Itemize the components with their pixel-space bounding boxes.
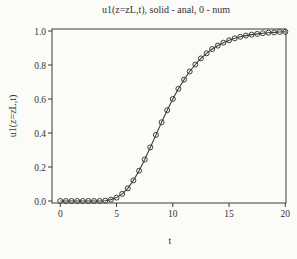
x-tick-label: 0: [58, 209, 63, 219]
y-tick-label: 0.6: [34, 95, 46, 105]
y-axis-label: u1(z=zL,t): [7, 95, 19, 138]
figure: u1(z=zL,t), solid - anal, 0 - num 0.00.2…: [0, 0, 297, 259]
numerical-markers: [58, 29, 288, 203]
y-tick-label: 0.2: [34, 163, 46, 173]
x-axis-ticks: 05101520: [58, 203, 290, 219]
x-tick-label: 10: [168, 209, 178, 219]
chart-title: u1(z=zL,t), solid - anal, 0 - num: [102, 4, 230, 16]
x-axis-label: t: [169, 235, 172, 246]
analytical-curve: [60, 32, 285, 201]
x-tick-label: 15: [224, 209, 234, 219]
y-tick-label: 0.8: [34, 61, 46, 71]
analytical-line: [60, 32, 285, 201]
plot-frame: [52, 29, 286, 203]
chart-svg: u1(z=zL,t), solid - anal, 0 - num 0.00.2…: [0, 0, 297, 259]
x-tick-label: 20: [281, 209, 291, 219]
y-axis-ticks: 0.00.20.40.60.81.0: [34, 27, 52, 207]
x-tick-label: 5: [114, 209, 119, 219]
y-tick-label: 0.4: [34, 129, 46, 139]
y-tick-label: 1.0: [34, 27, 46, 37]
y-tick-label: 0.0: [34, 197, 46, 207]
